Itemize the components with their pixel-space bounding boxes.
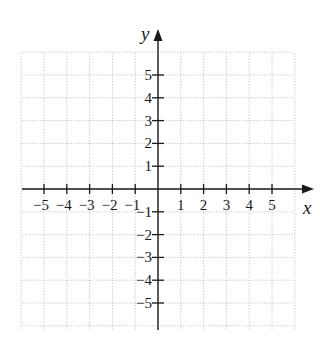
y-tick-label: 1 (145, 158, 153, 174)
x-tick-label: −5 (33, 197, 49, 213)
y-axis-arrow-icon (154, 29, 163, 41)
y-tick-label: 4 (145, 90, 153, 106)
x-tick-label: 1 (177, 197, 185, 213)
x-tick-label: 4 (245, 197, 253, 213)
x-tick-label: −2 (101, 197, 117, 213)
y-axis-label: y (139, 23, 150, 44)
x-tick-label: 3 (223, 197, 231, 213)
y-tick-label: 5 (145, 67, 153, 83)
x-tick-label: 2 (200, 197, 208, 213)
coordinate-plane: −5−4−3−2−112345 −5−4−3−2−112345 x y (0, 0, 324, 351)
x-tick-label: −4 (56, 197, 72, 213)
y-tick-label: 2 (145, 135, 153, 151)
x-axis-arrow-icon (302, 185, 314, 194)
y-tick-label: −5 (136, 295, 152, 311)
y-tick-label: −2 (136, 227, 152, 243)
x-tick-label: −3 (79, 197, 95, 213)
y-tick-label: −1 (136, 204, 152, 220)
x-axis-label: x (302, 197, 312, 218)
y-tick-label: 3 (145, 113, 153, 129)
x-tick-label: 5 (268, 197, 276, 213)
y-tick-label: −3 (136, 249, 152, 265)
y-tick-label: −4 (136, 272, 152, 288)
